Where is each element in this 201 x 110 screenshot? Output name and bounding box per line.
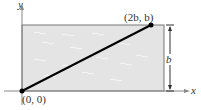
dimension-arrow-up-icon	[168, 26, 172, 31]
y-axis-label: y	[18, 0, 23, 10]
origin-label: (0, 0)	[22, 94, 46, 105]
point-2b-b-label: (2b, b)	[124, 12, 153, 23]
dimension-arrow-down-icon	[168, 85, 172, 90]
dimension-label: b	[165, 54, 173, 65]
x-axis-arrow-icon	[184, 89, 190, 93]
point-2b-b	[149, 23, 154, 28]
x-axis-label: x	[191, 85, 196, 96]
